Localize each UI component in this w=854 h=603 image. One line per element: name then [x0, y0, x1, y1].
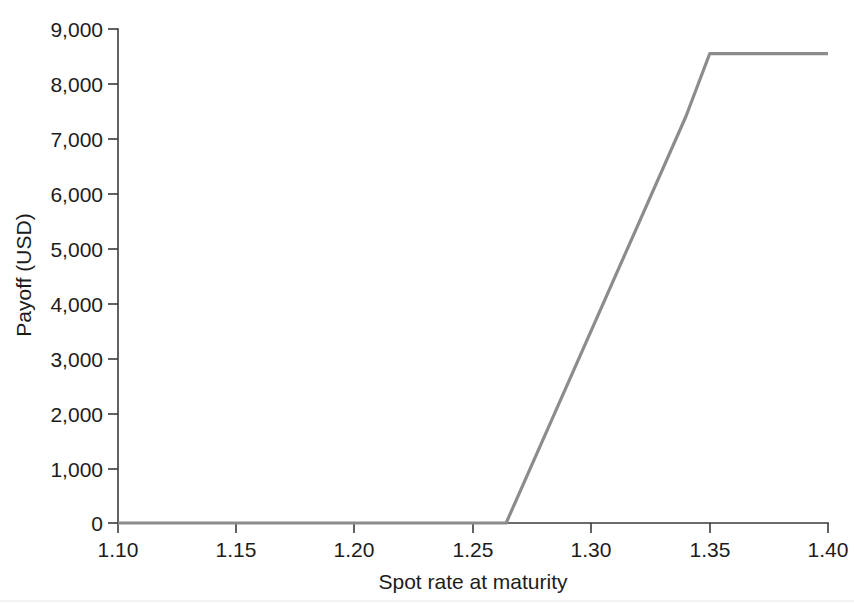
x-tick-label: 1.15	[216, 538, 257, 561]
y-tick-label: 8,000	[50, 73, 103, 96]
x-axis-title: Spot rate at maturity	[378, 570, 568, 593]
payoff-chart-figure: Payoff (USD) 9,000 8,000 7,000 6,000 5,0…	[0, 0, 854, 603]
x-tick-label: 1.20	[334, 538, 375, 561]
x-tick-label: 1.35	[690, 538, 731, 561]
chart-canvas: Payoff (USD) 9,000 8,000 7,000 6,000 5,0…	[0, 0, 854, 603]
x-tick-label: 1.30	[571, 538, 612, 561]
y-tick-label: 9,000	[50, 18, 103, 41]
y-tick-label: 6,000	[50, 183, 103, 206]
payoff-series-line	[118, 54, 828, 523]
y-tick-label: 0	[91, 512, 103, 535]
y-tick-label: 2,000	[50, 403, 103, 426]
y-tick-label: 7,000	[50, 128, 103, 151]
y-axis-title: Payoff (USD)	[12, 213, 35, 336]
y-tick-label: 3,000	[50, 348, 103, 371]
x-tick-label: 1.10	[98, 538, 139, 561]
x-tick-label: 1.40	[808, 538, 849, 561]
y-tick-label: 5,000	[50, 238, 103, 261]
x-tick-label: 1.25	[453, 538, 494, 561]
y-tick-label: 4,000	[50, 293, 103, 316]
y-tick-label: 1,000	[50, 458, 103, 481]
